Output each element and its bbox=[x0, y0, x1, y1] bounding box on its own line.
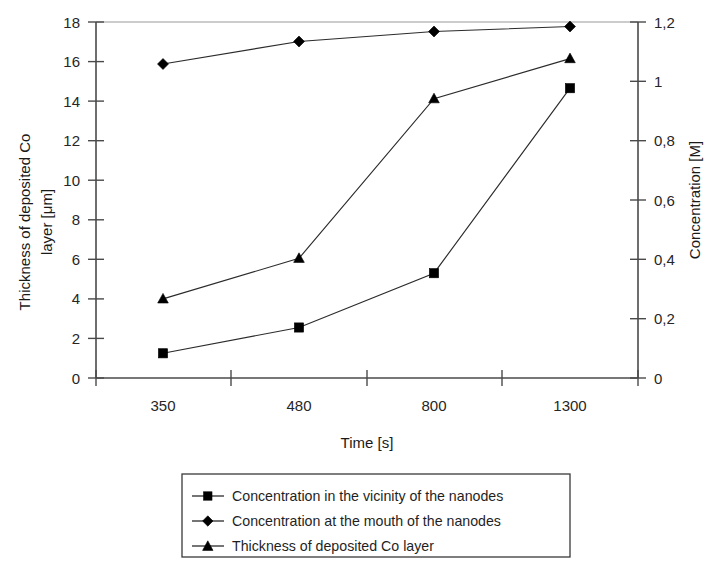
x-axis-title: Time [s] bbox=[341, 434, 394, 451]
data-point-square bbox=[565, 84, 574, 93]
left-tick-label: 4 bbox=[72, 290, 80, 307]
data-point-square bbox=[158, 349, 167, 358]
chart-figure: 18 16 14 12 10 8 6 4 2 0 1,2 1 0,8 0,6 0… bbox=[0, 0, 714, 586]
left-tick-label: 2 bbox=[72, 330, 80, 347]
x-tick-label: 1300 bbox=[553, 397, 586, 414]
legend-marker-square bbox=[204, 492, 212, 500]
right-tick-label: 1,2 bbox=[654, 14, 675, 31]
left-tick-label: 16 bbox=[63, 53, 80, 70]
y-axis-title-line2: layer [μm] bbox=[38, 189, 55, 255]
y-axis-title-line1: Thickness of deposited Co bbox=[16, 134, 33, 311]
legend-label: Thickness of deposited Co layer bbox=[232, 538, 434, 554]
x-tick-label: 800 bbox=[421, 397, 446, 414]
left-tick-label: 18 bbox=[63, 14, 80, 31]
x-tick-label: 350 bbox=[150, 397, 175, 414]
legend-item-vicinity: Concentration in the vicinity of the nan… bbox=[192, 488, 503, 504]
y2-axis-title: Concentration [M] bbox=[686, 141, 703, 259]
left-tick-label: 14 bbox=[63, 93, 80, 110]
legend-label: Concentration in the vicinity of the nan… bbox=[232, 488, 503, 504]
chart-legend: Concentration in the vicinity of the nan… bbox=[182, 474, 570, 557]
data-point-square bbox=[429, 269, 438, 278]
right-tick-label: 0,4 bbox=[654, 251, 675, 268]
left-tick-label: 10 bbox=[63, 172, 80, 189]
left-tick-label: 12 bbox=[63, 132, 80, 149]
right-tick-label: 0 bbox=[654, 370, 662, 387]
right-tick-label: 0,6 bbox=[654, 192, 675, 209]
right-tick-label: 0,2 bbox=[654, 310, 675, 327]
chart-svg: 18 16 14 12 10 8 6 4 2 0 1,2 1 0,8 0,6 0… bbox=[0, 0, 714, 586]
left-tick-label: 0 bbox=[72, 370, 80, 387]
legend-label: Concentration at the mouth of the nanode… bbox=[232, 513, 501, 529]
legend-item-mouth: Concentration at the mouth of the nanode… bbox=[192, 513, 501, 529]
data-point-square bbox=[294, 323, 303, 332]
left-tick-label: 6 bbox=[72, 251, 80, 268]
right-tick-label: 1 bbox=[654, 73, 662, 90]
x-tick-label: 480 bbox=[286, 397, 311, 414]
left-tick-label: 8 bbox=[72, 211, 80, 228]
right-tick-label: 0,8 bbox=[654, 132, 675, 149]
